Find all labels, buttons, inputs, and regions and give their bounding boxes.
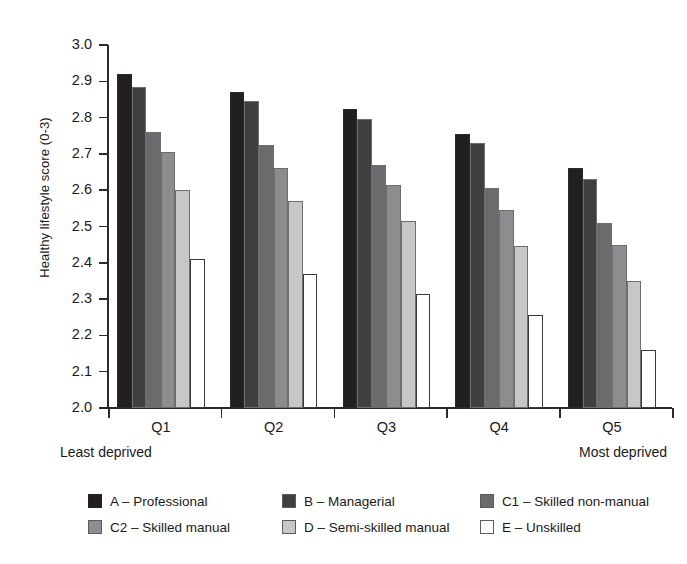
- bar-q5-series-3: [612, 245, 627, 408]
- bar-q4-series-3: [499, 210, 514, 408]
- x-axis-group-label-q3: Q3: [377, 419, 396, 435]
- bar-q1-series-4: [175, 190, 190, 408]
- legend-row: A – ProfessionalB – ManagerialC1 – Skill…: [88, 488, 658, 514]
- bar-q4-series-2: [485, 188, 500, 408]
- legend-label: B – Managerial: [304, 494, 395, 509]
- bar-q4-series-0: [455, 134, 470, 408]
- bar-q5-series-2: [597, 223, 612, 408]
- legend-swatch-icon: [88, 494, 102, 508]
- y-axis-tick: [99, 298, 108, 300]
- bar-q1-series-2: [146, 132, 161, 408]
- y-axis-tick-label: 2.8: [46, 109, 92, 125]
- legend-swatch-icon: [282, 494, 296, 508]
- bar-q5-series-5: [641, 350, 656, 408]
- bar-q5-series-1: [583, 179, 598, 408]
- bar-q3-series-0: [343, 109, 358, 408]
- bar-q5-series-4: [627, 281, 642, 408]
- y-axis-tick-label: 2.2: [46, 326, 92, 342]
- y-axis-tick: [99, 226, 108, 228]
- bar-q1-series-1: [132, 87, 147, 408]
- legend-label: C2 – Skilled manual: [110, 520, 230, 535]
- legend-item-3[interactable]: C2 – Skilled manual: [88, 520, 282, 535]
- x-axis-separator-tick: [672, 408, 674, 418]
- y-axis-tick: [99, 407, 108, 409]
- bar-q1-series-3: [161, 152, 176, 408]
- bar-q3-series-4: [401, 221, 416, 408]
- bar-chart: Healthy lifestyle score (0-3) 3.02.92.82…: [0, 0, 687, 564]
- x-axis-note-least-deprived: Least deprived: [60, 444, 152, 460]
- x-axis-separator-tick: [221, 408, 223, 418]
- y-axis-tick-label: 2.0: [46, 399, 92, 415]
- legend-item-2[interactable]: C1 – Skilled non-manual: [480, 494, 658, 509]
- legend-item-1[interactable]: B – Managerial: [282, 494, 480, 509]
- x-axis-group-label-q1: Q1: [151, 419, 170, 435]
- bar-q4-series-5: [528, 315, 543, 408]
- x-axis-separator-tick: [108, 408, 110, 418]
- y-axis-tick-label: 2.4: [46, 254, 92, 270]
- y-axis-tick: [99, 117, 108, 119]
- bar-q4-series-1: [470, 143, 485, 408]
- legend-label: E – Unskilled: [502, 520, 581, 535]
- x-axis-separator-tick: [446, 408, 448, 418]
- bar-q2-series-0: [230, 92, 245, 408]
- bar-q1-series-5: [190, 259, 205, 408]
- y-axis-tick-label: 2.5: [46, 218, 92, 234]
- y-axis-tick: [99, 335, 108, 337]
- legend-item-4[interactable]: D – Semi-skilled manual: [282, 520, 480, 535]
- legend-label: C1 – Skilled non-manual: [502, 494, 649, 509]
- y-axis-tick: [99, 81, 108, 83]
- plot-area: [108, 45, 672, 408]
- bar-q3-series-1: [357, 119, 372, 408]
- legend-row: C2 – Skilled manualD – Semi-skilled manu…: [88, 514, 658, 540]
- legend-swatch-icon: [88, 520, 102, 534]
- bar-q2-series-5: [303, 274, 318, 408]
- x-axis-note-most-deprived: Most deprived: [579, 444, 667, 460]
- legend-item-5[interactable]: E – Unskilled: [480, 520, 658, 535]
- chart-legend: A – ProfessionalB – ManagerialC1 – Skill…: [88, 488, 658, 540]
- y-axis-tick-label: 2.3: [46, 290, 92, 306]
- y-axis-tick: [99, 44, 108, 46]
- y-axis-tick-label: 3.0: [46, 36, 92, 52]
- x-axis-group-label-q2: Q2: [264, 419, 283, 435]
- y-axis-tick-label: 2.7: [46, 145, 92, 161]
- y-axis-tick-label: 2.9: [46, 72, 92, 88]
- legend-swatch-icon: [282, 520, 296, 534]
- legend-label: D – Semi-skilled manual: [304, 520, 450, 535]
- bar-q2-series-2: [259, 145, 274, 408]
- bar-q1-series-0: [117, 74, 132, 408]
- bar-q3-series-5: [416, 294, 431, 408]
- x-axis-group-label-q5: Q5: [602, 419, 621, 435]
- bar-q5-series-0: [568, 168, 583, 408]
- bar-q2-series-3: [274, 168, 289, 408]
- x-axis-separator-tick: [559, 408, 561, 418]
- legend-swatch-icon: [480, 520, 494, 534]
- y-axis-tick: [99, 371, 108, 373]
- bar-q3-series-3: [386, 185, 401, 408]
- bar-q2-series-4: [288, 201, 303, 408]
- y-axis-tick: [99, 153, 108, 155]
- legend-item-0[interactable]: A – Professional: [88, 494, 282, 509]
- x-axis-group-label-q4: Q4: [490, 419, 509, 435]
- y-axis-tick: [99, 189, 108, 191]
- legend-label: A – Professional: [110, 494, 208, 509]
- bar-q2-series-1: [244, 101, 259, 408]
- y-axis-tick-label: 2.1: [46, 363, 92, 379]
- bar-q3-series-2: [372, 165, 387, 408]
- legend-swatch-icon: [480, 494, 494, 508]
- x-axis-separator-tick: [334, 408, 336, 418]
- y-axis-tick: [99, 262, 108, 264]
- y-axis-tick-label: 2.6: [46, 181, 92, 197]
- bar-q4-series-4: [514, 246, 529, 408]
